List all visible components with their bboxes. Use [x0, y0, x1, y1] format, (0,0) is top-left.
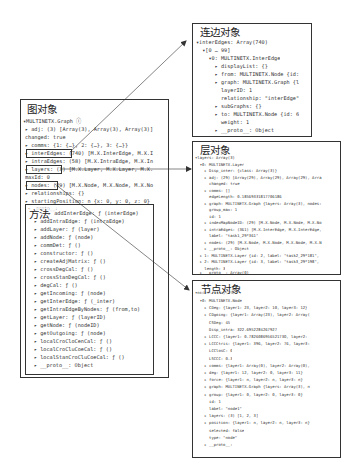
layer-line-14[interactable]: ▸ __proto__: Object	[195, 246, 249, 252]
node-line-20[interactable]: ▸ __proto__:	[195, 442, 232, 448]
layer-line-13[interactable]: ▸ nodes: (29) [M.X.Node, M.X.Node, M.X.N…	[195, 240, 322, 246]
method-getincoming[interactable]: ▸ getIncoming: ƒ (node)	[34, 289, 106, 297]
graph-prop-changed: changed: true	[25, 133, 167, 141]
method-proto[interactable]: ▸ __proto__: Object	[34, 361, 93, 369]
edge-line-9[interactable]: ▸ to: MULTINETX.Node {id: 6	[196, 110, 299, 118]
method-localcroclocencal[interactable]: ▸ localCroCloCenCal: ƒ ()	[34, 337, 112, 345]
layer-line-0[interactable]: ▾layers: Array(3)	[195, 155, 235, 161]
method-constructor[interactable]: ▸ constructor: ƒ ()	[34, 249, 93, 257]
edge-line-4[interactable]: ▸ from: MULTINETX.Node {id:	[196, 70, 299, 78]
edge-object-box: 连边对象 ▾interEdges: Array(740) ▾[0 … 99] ▾…	[192, 23, 312, 137]
node-line-7: LCClosC: 0	[195, 348, 232, 354]
edge-line-2[interactable]: ▾0: MULTINETX.InterEdge	[196, 54, 280, 62]
layer-line-5[interactable]: ▸ comms: []	[195, 188, 230, 194]
node-object-title: 节点对象	[201, 283, 241, 295]
node-line-11[interactable]: ▸ force: {layer1: n, layer2: n, layer3: …	[195, 377, 303, 383]
node-line-3: CSDeg: 45	[195, 320, 230, 326]
method-getintraedgebynodes[interactable]: ▸ getIntraEdgeByNodes: ƒ (from,to)	[34, 305, 140, 313]
method-getlayer[interactable]: ▸ getLayer: ƒ (layerID)	[34, 313, 106, 321]
edge-line-7: relationship: "interEdge"	[196, 94, 299, 102]
edge-line-1[interactable]: ▾[0 … 99]	[196, 46, 230, 54]
node-object-box: ▾nodes: Array(29) 节点对象 ▾0: MULTINETX.Nod…	[192, 280, 341, 458]
layer-line-8: group_max: 1	[195, 207, 237, 213]
layers-highlight-box	[26, 165, 62, 174]
method-localstancroclucoecal[interactable]: ▸ localStanCroCluCoeCal: ƒ ()	[34, 353, 125, 361]
graph-prop-comms[interactable]: ▸ comms: {1: {…}, 2: {…}, 3: {…}}	[25, 141, 167, 149]
interedges-highlight-box	[26, 149, 72, 158]
layer-line-6: edgeLength: 0.18569331817706186	[195, 194, 282, 200]
layer-line-3[interactable]: ▸ adj: (29) [Array(29), Array(29), Array…	[195, 175, 322, 181]
layer-line-9: id: 1	[195, 214, 221, 220]
layer-line-7[interactable]: ▸ graph: MULTINETX.Graph {layers: Array(…	[195, 201, 322, 207]
graph-prop-adj[interactable]: ▸ adj: (3) [Array(3), Array(3), Array(3)…	[25, 125, 167, 133]
edge-object-title: 连边对象	[200, 26, 240, 38]
method-addnode[interactable]: ▸ addNode: ƒ (node)	[34, 233, 93, 241]
method-localcroclucoecal[interactable]: ▸ localCroCluCoeCal: ƒ ()	[34, 345, 112, 353]
methods-box: ▾__proto__: 方法 ▸ addInterEdge: ƒ (interE…	[25, 204, 154, 375]
node-line-9[interactable]: ▸ comms: {layer1: Array(0), layer2: Arra…	[195, 363, 310, 369]
method-getoutgoing[interactable]: ▸ getOutgoing: ƒ (node)	[34, 329, 106, 337]
edge-line-8[interactable]: ▸ subGraphs: {}	[196, 102, 262, 110]
method-commdet[interactable]: ▸ commDet: ƒ ()	[34, 241, 81, 249]
layer-line-16[interactable]: ▸ 2: MULTINETX.Layer {id: 3, label: "tas…	[195, 259, 319, 265]
layer-line-1[interactable]: ▾0: MULTINETX.Layer	[195, 162, 244, 168]
layer-line-4: changed: true	[195, 181, 240, 187]
node-line-13[interactable]: ▸ group: {layer1: 0, layer2: 0, layer3: …	[195, 392, 303, 398]
edge-line-5[interactable]: ▸ graph: MULTINETX.Graph {l	[196, 78, 299, 86]
method-addintraedge[interactable]: ▸ addIntraEdge: ƒ (intraEdge)	[34, 217, 125, 225]
node-line-8: LSCCC: 0.3	[195, 356, 232, 362]
method-crossstandegcal[interactable]: ▸ crossStanDegCal: ƒ ()	[34, 273, 106, 281]
method-getinteredge[interactable]: ▸ getInterEdge: ƒ (_inter)	[34, 297, 115, 305]
method-degcal[interactable]: ▸ degCal: ƒ ()	[34, 281, 78, 289]
node-line-17[interactable]: ▸ position: {layer1: n, layer2: n, layer…	[195, 420, 310, 426]
node-line-14: id: 1	[195, 399, 221, 405]
method-createadjmatrix[interactable]: ▸ createAdjMatrix: ƒ ()	[34, 257, 106, 265]
graph-prop-maxid: maxId: 0	[25, 173, 167, 181]
node-line-12[interactable]: ▸ graph: MULTINETX.Graph {layers: Array(…	[195, 384, 310, 390]
layer-line-11[interactable]: ▸ intraEdges: (361) [M.X.InterEdge, M.X.…	[195, 227, 322, 233]
node-line-19: type: "node"	[195, 435, 237, 441]
graph-header: ▾MULTINETX.Graph ⓘ	[23, 117, 167, 125]
node-line-6[interactable]: ▸ LCCCtris: {layer1: 396, layer2: 76, la…	[195, 341, 310, 347]
graph-object-title: 图对象	[27, 103, 57, 115]
node-line-15: label: "node1"	[195, 406, 242, 412]
layer-line-2[interactable]: ▸ Disp_inter: {class: Array(3)}	[195, 168, 277, 174]
edge-line-10: weight: 1	[196, 118, 249, 126]
edge-line-0[interactable]: ▾interEdges: Array(740)	[196, 38, 268, 46]
node-line-18: selected: false	[195, 428, 244, 434]
node-line-4: Disp_intra: 322.6952284267927	[195, 327, 277, 333]
node-line-0[interactable]: ▾0: MULTINETX.Node	[195, 298, 242, 304]
layer-object-box: 层对象 ▾layers: Array(3) ▾0: MULTINETX.Laye…	[192, 141, 341, 275]
node-line-5[interactable]: ▸ LCCC: {layer1: 0.782608695652173O, lay…	[195, 334, 307, 340]
layer-line-12: label: "task1_29*361"	[195, 233, 258, 239]
method-addlayer[interactable]: ▸ addLayer: ƒ (layer)	[34, 225, 100, 233]
nodes-highlight-box	[26, 181, 58, 190]
edge-line-3[interactable]: ▸ displayList: {}	[196, 62, 268, 70]
layer-line-10[interactable]: ▸ indexMapNodeID: (29) [M.X.Node, M.X.No…	[195, 220, 322, 226]
method-crossdegcal[interactable]: ▸ crossDegCal: ƒ ()	[34, 265, 93, 273]
method-addinteredge[interactable]: ▸ addInterEdge: ƒ (interEdge)	[48, 209, 139, 217]
node-line-1[interactable]: ▸ CDeg: {layer1: 23, layer2: 10, layer3:…	[195, 305, 307, 311]
method-getnode[interactable]: ▸ getNode: ƒ (nodeID)	[34, 321, 100, 329]
node-line-16[interactable]: ▸ layers: (3) [1, 2, 3]	[195, 413, 258, 419]
edge-line-6: layerID: 1	[196, 86, 252, 94]
layer-line-18[interactable]: ▸ __proto__: Array(0)	[195, 270, 249, 276]
node-line-10[interactable]: ▸ deg: {layer1: 12, layer2: 0, layer3: 1…	[195, 370, 303, 376]
node-line-2[interactable]: ▸ CDgoing: {layer1: Array(23), layer2: A…	[195, 312, 310, 318]
graph-prop-intraedges[interactable]: ▸ intraEdges: (58) [M.X.IntraEdge, M.X.I…	[25, 157, 167, 165]
edge-line-11[interactable]: ▸ __proto__: Object	[196, 126, 274, 134]
graph-prop-relationships[interactable]: ▸ relationships: {}	[25, 189, 167, 197]
layer-line-15[interactable]: ▸ 1: MULTINETX.Layer {id: 2, label: "tas…	[195, 253, 319, 259]
